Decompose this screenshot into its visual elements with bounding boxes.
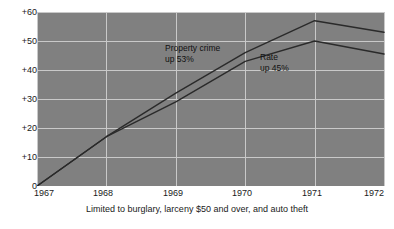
plot-area: Property crime up 53% Rate up 45% <box>37 12 385 186</box>
annotation-rate-line1: Rate <box>260 52 289 63</box>
annotation-rate: Rate up 45% <box>260 52 289 73</box>
y-axis-tick-60: +60 <box>3 8 37 17</box>
y-axis-tick-30: +30 <box>3 95 37 104</box>
chart-caption: Limited to burglary, larceny $50 and ove… <box>0 204 394 215</box>
annotation-rate-line2: up 45% <box>260 63 289 74</box>
annotation-property-crime: Property crime up 53% <box>165 43 220 64</box>
annotation-property-crime-line2: up 53% <box>165 54 220 65</box>
y-axis-tick-20: +20 <box>3 124 37 133</box>
y-axis-tick-0: 0 <box>3 182 37 191</box>
x-axis-tick-1968: 1968 <box>93 188 113 198</box>
y-axis-tick-40: +40 <box>3 66 37 75</box>
chart-figure: +60 +50 +40 +30 +20 +10 0 Property crime… <box>0 0 394 229</box>
y-axis-tick-10: +10 <box>3 153 37 162</box>
x-axis-tick-1970: 1970 <box>232 188 252 198</box>
series-lines <box>37 12 385 186</box>
x-axis-tick-1972: 1972 <box>364 188 384 198</box>
x-axis-tick-1971: 1971 <box>302 188 322 198</box>
chart-caption-cut-off <box>0 221 394 228</box>
x-axis-tick-1967: 1967 <box>34 188 54 198</box>
y-axis-tick-50: +50 <box>3 37 37 46</box>
x-axis-tick-1969: 1969 <box>163 188 183 198</box>
annotation-property-crime-line1: Property crime <box>165 43 220 54</box>
